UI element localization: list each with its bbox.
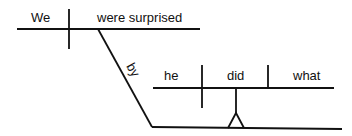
preposition-object-line (152, 127, 342, 129)
pedestal-tripod (228, 113, 244, 128)
diagram-canvas: We were surprised by he did what (0, 0, 352, 136)
word-clause-verb: did (227, 68, 244, 83)
preposition-slant (98, 29, 152, 127)
word-subject: We (31, 10, 50, 25)
word-preposition: by (123, 60, 143, 80)
word-verb: were surprised (96, 10, 182, 25)
word-clause-subject: he (164, 68, 178, 83)
sentence-diagram: We were surprised by he did what (0, 0, 352, 136)
word-clause-object: what (292, 68, 321, 83)
